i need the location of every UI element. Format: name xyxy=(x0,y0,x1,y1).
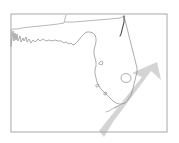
map-canvas xyxy=(0,0,179,143)
florida-outline-map-figure xyxy=(0,0,179,143)
